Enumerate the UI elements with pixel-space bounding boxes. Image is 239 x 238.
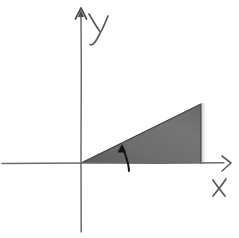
figure-svg — [0, 0, 239, 238]
math-figure-canvas: X y right-triangle curved arrow pointing… — [0, 0, 239, 238]
y-axis-label-glyph — [89, 14, 108, 45]
x-axis-line — [2, 163, 224, 164]
x-axis-label-glyph — [213, 179, 226, 196]
shaded-triangle-region — [81, 103, 206, 164]
